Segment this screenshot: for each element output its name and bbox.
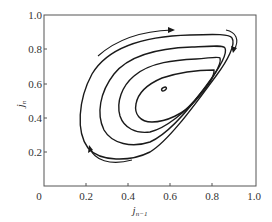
x-axis-label: jn−1 [131,204,148,218]
center-point [161,86,167,91]
x-tick-label: 0.2 [79,190,93,202]
orbit-outer [80,34,233,159]
orbit-4 [136,70,214,122]
y-tick-label: 0.8 [28,43,42,55]
arrow-head-top-icon [168,27,175,33]
orbit-2 [100,46,226,145]
x-tick-label: 1.0 [247,190,261,202]
y-tick-label: 1.0 [28,9,42,21]
y-tick-label: 0.6 [28,78,42,90]
plot-frame [44,15,256,186]
x-tick-label: 0.8 [205,190,219,202]
x-tick-label: 0 [36,190,42,202]
y-axis-label: jn [14,100,28,109]
x-tick-label: 0.6 [163,190,177,202]
orbits [80,34,233,159]
y-tick-label: 0.2 [28,146,42,158]
x-tick-label: 0.4 [121,190,135,202]
y-tick-label: 0.4 [28,112,42,124]
orbit-3 [119,57,220,132]
phase-portrait-chart: 0 0.2 0.4 0.6 0.8 1.0 0.2 0.4 0.6 0.8 1.… [0,0,272,222]
